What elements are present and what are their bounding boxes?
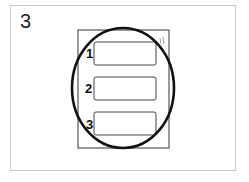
slot-label-1: 1 xyxy=(86,47,93,60)
diagram-drawing xyxy=(0,0,249,182)
corner-mark xyxy=(160,38,161,44)
slot-1-box xyxy=(94,42,156,65)
slot-2-box xyxy=(94,77,156,100)
slot-label-2: 2 xyxy=(85,82,92,95)
slot-label-3: 3 xyxy=(86,118,93,131)
slot-3-box xyxy=(94,112,156,135)
